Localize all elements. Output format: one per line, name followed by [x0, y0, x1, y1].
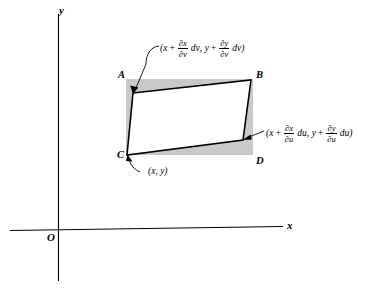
v-partial-y-over-v: ∂y ∂v: [219, 39, 229, 58]
base-point-annotation: (x, y): [148, 167, 168, 177]
x-axis: [10, 227, 283, 231]
u-frac1-numerator: ∂x: [284, 124, 294, 133]
u-differential-1: du: [297, 129, 307, 139]
u-frac1-denominator: ∂u: [284, 133, 294, 143]
u-plus-1: +: [273, 129, 282, 139]
v-comma: ,: [200, 44, 202, 54]
v-partial-x-over-v: ∂x ∂v: [178, 39, 188, 58]
corner-label-d: D: [256, 156, 264, 167]
u-frac2-numerator: ∂y: [327, 124, 337, 133]
origin-label: O: [47, 232, 55, 243]
figure-canvas: y x O A B C D (x, y) ( x + ∂x ∂v dv , y …: [0, 0, 372, 288]
u-partial-x-over-u: ∂x ∂u: [284, 124, 294, 143]
v-differential-1: dv: [191, 44, 200, 54]
y-axis-label: y: [59, 5, 64, 16]
v-close-paren: ): [241, 44, 244, 54]
v-frac1-denominator: ∂v: [178, 48, 188, 58]
v-frac1-numerator: ∂x: [178, 39, 188, 48]
u-plus-2: +: [316, 129, 325, 139]
u-partial-y-over-u: ∂y ∂u: [326, 124, 336, 143]
corner-label-c: C: [117, 150, 124, 161]
u-direction-annotation: ( x + ∂x ∂u du , y + ∂y ∂u du ): [266, 123, 352, 143]
v-frac2-denominator: ∂v: [219, 48, 229, 58]
x-axis-label: x: [287, 220, 293, 231]
u-frac2-denominator: ∂u: [326, 133, 336, 143]
u-close-paren: ): [349, 129, 352, 139]
corner-label-a: A: [118, 70, 125, 81]
v-direction-annotation: ( x + ∂x ∂v dv , y + ∂y ∂v dv ): [160, 38, 244, 58]
v-frac2-numerator: ∂y: [219, 39, 229, 48]
v-plus-1: +: [167, 44, 176, 54]
v-plus-2: +: [209, 44, 218, 54]
u-differential-2: du: [340, 129, 350, 139]
v-differential-2: dv: [232, 44, 241, 54]
corner-label-b: B: [256, 70, 263, 81]
u-comma: ,: [307, 129, 309, 139]
